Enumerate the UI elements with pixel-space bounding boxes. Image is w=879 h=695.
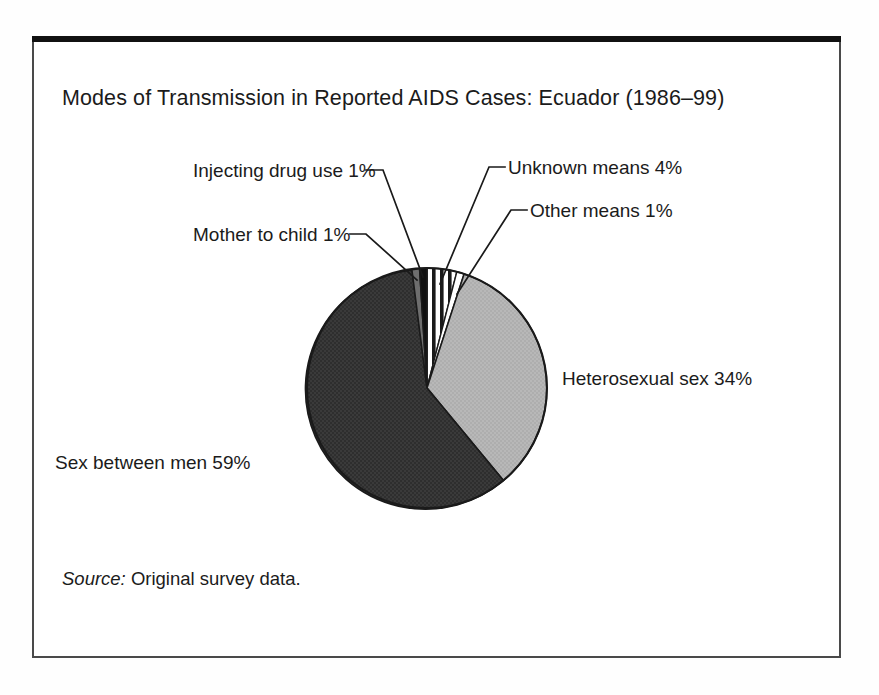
page-title: Modes of Transmission in Reported AIDS C… bbox=[62, 86, 802, 111]
label-injecting-drug-use: Injecting drug use 1% bbox=[193, 160, 376, 182]
source-note: Source: Original survey data. bbox=[62, 568, 301, 590]
figure-frame bbox=[32, 36, 841, 658]
label-other-means: Other means 1% bbox=[530, 200, 673, 222]
label-heterosexual-sex: Heterosexual sex 34% bbox=[562, 368, 752, 390]
figure-top-rule bbox=[32, 36, 841, 42]
label-mother-to-child: Mother to child 1% bbox=[193, 224, 350, 246]
label-sex-between-men: Sex between men 59% bbox=[55, 452, 250, 474]
source-text: Original survey data. bbox=[126, 568, 301, 589]
source-label: Source: bbox=[62, 568, 126, 589]
label-unknown-means: Unknown means 4% bbox=[508, 157, 682, 179]
page-canvas: Modes of Transmission in Reported AIDS C… bbox=[0, 0, 879, 695]
